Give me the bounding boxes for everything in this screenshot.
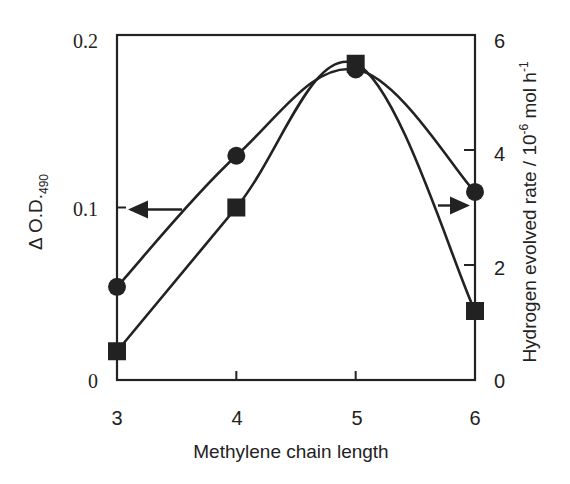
x-tick-label: 4 (231, 407, 242, 429)
x-tick-label: 5 (351, 407, 362, 429)
square-marker (466, 302, 484, 320)
svg-text:Δ O.D.490: Δ O.D.490 (25, 174, 51, 250)
y-left-tick-label: 0.2 (73, 30, 98, 52)
y-left-axis-label-subscript: 490 (37, 174, 51, 194)
y-right-axis-label-main: Hydrogen evolved rate / 10 (519, 134, 540, 362)
chart: 3 4 5 6 0 0.1 0.2 0 2 4 6 Methylene chai… (0, 0, 570, 484)
y-right-axis-label-exp2: -1 (517, 61, 531, 72)
circle-marker (227, 147, 245, 165)
x-axis-label: Methylene chain length (193, 441, 388, 462)
y-left-tick-label: 0.1 (73, 198, 98, 220)
y-left-axis-label-main: Δ O.D. (25, 194, 46, 250)
y-left-axis-label: Δ O.D.490 (25, 174, 51, 250)
y-right-tick-label: 6 (494, 30, 505, 52)
y-right-tick-label: 2 (494, 257, 505, 279)
square-marker (227, 199, 245, 217)
plot-area (108, 35, 484, 380)
y-right-axis-label-exp1: -6 (517, 123, 531, 134)
circle-marker (108, 278, 126, 296)
square-marker (108, 342, 126, 360)
x-tick-label: 3 (111, 407, 122, 429)
od-line (117, 69, 475, 287)
x-tick-labels: 3 4 5 6 (111, 407, 480, 429)
left-arrow-icon (128, 201, 148, 219)
y-right-axis-label: Hydrogen evolved rate / 10-6 mol h-1 (517, 61, 540, 363)
right-arrow-icon (450, 197, 470, 215)
y-right-tick-labels: 0 2 4 6 (494, 30, 505, 392)
y-left-tick-label: 0 (88, 370, 98, 392)
square-marker (347, 55, 365, 73)
circle-marker (466, 183, 484, 201)
svg-text:Hydrogen evolved rate / 10-6 m: Hydrogen evolved rate / 10-6 mol h-1 (517, 61, 540, 363)
plot-frame (117, 35, 475, 380)
y-right-axis-label-mid: mol h (519, 72, 540, 124)
y-right-tick-label: 0 (494, 370, 505, 392)
y-right-tick-label: 4 (494, 143, 505, 165)
hydrogen-line (117, 62, 475, 352)
y-left-tick-labels: 0 0.1 0.2 (73, 30, 98, 392)
x-tick-label: 6 (469, 407, 480, 429)
